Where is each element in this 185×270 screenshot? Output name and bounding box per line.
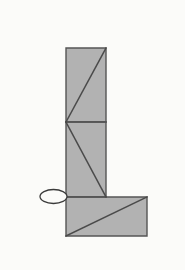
vertex-marker-ellipse[interactable] [40, 190, 67, 204]
figure-canvas [0, 0, 185, 270]
